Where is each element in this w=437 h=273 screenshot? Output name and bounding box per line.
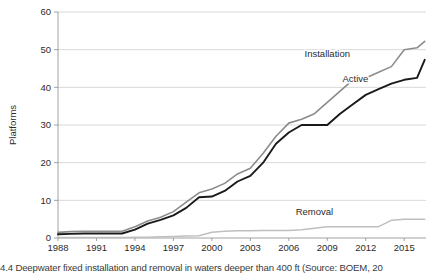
series-label-removal: Removal	[296, 206, 334, 217]
platforms-line-chart: 0102030405060 19881991199419972000200320…	[0, 0, 437, 273]
y-axis-tick-labels: 0102030405060	[40, 6, 51, 243]
y-tick-label: 10	[40, 195, 51, 206]
y-axis-title-text: Platforms	[7, 105, 18, 145]
x-tick-label: 2009	[317, 242, 338, 253]
figure-container: 0102030405060 19881991199419972000200320…	[0, 0, 437, 273]
axes	[54, 12, 426, 241]
x-tick-label: 2012	[355, 242, 376, 253]
y-tick-label: 30	[40, 119, 51, 130]
x-tick-label: 2000	[201, 242, 222, 253]
x-tick-label: 1988	[47, 242, 68, 253]
series-line-removal	[58, 219, 425, 237]
y-tick-label: 50	[40, 44, 51, 55]
series-line-installation	[58, 41, 425, 232]
data-series	[58, 41, 425, 237]
x-tick-label: 1994	[124, 242, 145, 253]
series-inline-labels: InstallationInstallationActiveActiveRemo…	[296, 48, 369, 217]
series-label-installation: Installation	[305, 48, 350, 59]
series-line-active	[58, 60, 425, 234]
y-tick-label: 40	[40, 82, 51, 93]
series-label-active: Active	[343, 73, 369, 84]
y-axis-title: Platforms	[7, 105, 18, 145]
figure-caption: 4.4 Deepwater fixed installation and rem…	[0, 262, 437, 273]
y-tick-label: 60	[40, 6, 51, 17]
x-axis-tick-labels: 1988199119941997200020032006200920122015	[47, 242, 414, 253]
y-tick-label: 20	[40, 157, 51, 168]
x-tick-label: 1991	[86, 242, 107, 253]
x-tick-label: 1997	[163, 242, 184, 253]
x-tick-label: 2015	[394, 242, 415, 253]
x-tick-label: 2003	[240, 242, 261, 253]
x-tick-label: 2006	[278, 242, 299, 253]
